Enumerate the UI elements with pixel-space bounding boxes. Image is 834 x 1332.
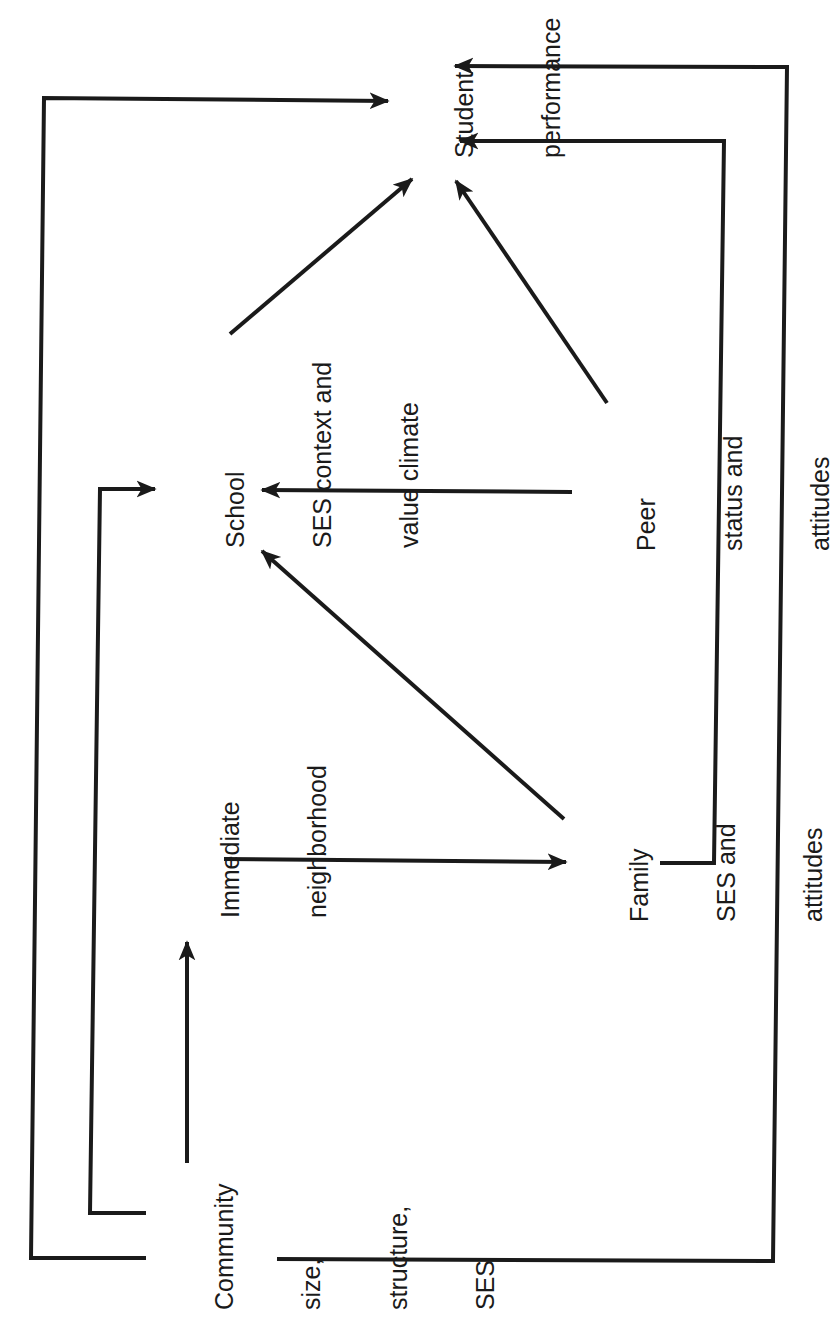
edge-community-student-left <box>31 98 388 1258</box>
node-neighborhood-line-1: Immediate <box>216 765 245 918</box>
node-community-line-3: structure, <box>384 1184 413 1310</box>
edge-community-student-right <box>277 66 787 1261</box>
node-peer-line-2: status and <box>719 436 748 551</box>
node-neighborhood-line-2: neighborhood <box>303 765 332 918</box>
node-school-line-3: value climate <box>395 362 424 548</box>
node-school-line-1: School <box>221 362 250 548</box>
node-community-line-2: size, <box>297 1184 326 1310</box>
node-community: Community size, structure, SES <box>152 1184 558 1310</box>
node-school-line-2: SES context and <box>308 362 337 548</box>
node-family-line-2: SES and <box>712 823 741 922</box>
node-student-line-2: performance <box>537 18 566 158</box>
node-school: School SES context and value climate <box>163 362 482 548</box>
edge-school-student <box>230 179 412 334</box>
node-neighborhood: Immediate neighborhood <box>158 765 390 918</box>
node-community-line-4: SES <box>471 1184 500 1310</box>
node-family-line-1: Family <box>625 823 654 922</box>
node-family-line-3: attitudes <box>799 823 828 922</box>
edge-community-school <box>90 489 155 1213</box>
node-family: Family SES and attitudes <box>567 823 834 922</box>
node-peer: Peer status and attitudes <box>574 436 834 551</box>
node-peer-line-1: Peer <box>632 436 661 551</box>
node-student-performance: Student performance <box>392 18 624 158</box>
node-peer-line-3: attitudes <box>806 436 834 551</box>
node-community-line-1: Community <box>210 1184 239 1310</box>
node-student-line-1: Student <box>450 18 479 158</box>
